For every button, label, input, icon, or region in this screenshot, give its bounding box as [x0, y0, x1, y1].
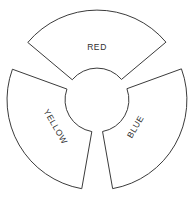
sector-shape-yellow[interactable]	[7, 69, 91, 188]
sector-group-yellow[interactable]: YELLOW	[7, 69, 91, 188]
sector-diagram-canvas: RED YELLOW BLUE	[0, 0, 195, 199]
sector-shape-blue[interactable]	[103, 69, 187, 188]
sector-diagram: RED YELLOW BLUE	[0, 0, 195, 199]
sector-group-blue[interactable]: BLUE	[103, 69, 187, 188]
sector-label-red: RED	[87, 42, 107, 52]
sector-group-red[interactable]: RED	[28, 10, 166, 79]
